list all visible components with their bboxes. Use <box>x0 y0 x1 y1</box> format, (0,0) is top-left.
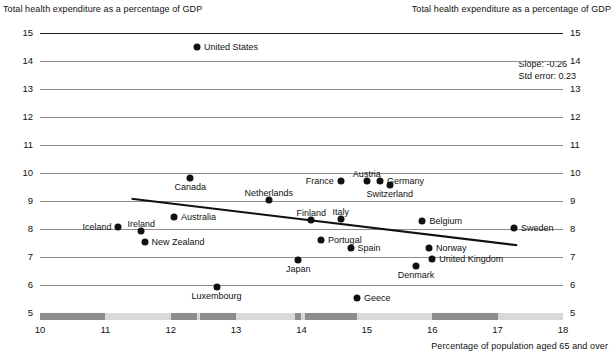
x-tick-label: 17 <box>488 324 508 335</box>
data-point-label: New Zealand <box>152 238 205 247</box>
y-tick-label: 8 <box>570 223 592 234</box>
gridline <box>40 145 563 146</box>
data-point <box>187 175 194 182</box>
slope-text: Slope: -0.26 <box>518 58 576 70</box>
data-point-label: Japan <box>286 265 311 274</box>
axis-bar-segment <box>200 313 236 320</box>
data-point <box>419 218 426 225</box>
y-tick-label: 5 <box>570 307 592 318</box>
data-point <box>171 214 178 221</box>
data-point-label: Sweden <box>521 224 554 233</box>
y-tick-label: 15 <box>11 27 33 38</box>
x-tick-label: 15 <box>357 324 377 335</box>
data-point-label: Canada <box>175 183 207 192</box>
data-point <box>318 236 325 243</box>
gridline <box>40 117 563 118</box>
y-tick-label: 13 <box>570 83 592 94</box>
gridline <box>40 33 563 34</box>
y-tick-label: 14 <box>11 55 33 66</box>
gridline <box>40 89 563 90</box>
axis-bar-segment <box>432 313 497 320</box>
data-point-label: Denmark <box>398 271 435 280</box>
y-tick-label: 10 <box>11 167 33 178</box>
data-point <box>213 284 220 291</box>
x-tick-label: 13 <box>226 324 246 335</box>
data-point <box>510 224 517 231</box>
y-tick-label: 6 <box>570 279 592 290</box>
data-point-label: Italy <box>332 208 349 217</box>
gridline <box>40 285 563 286</box>
x-tick-label: 18 <box>553 324 573 335</box>
data-point <box>141 239 148 246</box>
data-point <box>425 245 432 252</box>
data-point <box>429 256 436 263</box>
axis-bar-segment <box>40 313 105 320</box>
axis-bar-segment <box>295 313 302 320</box>
y-tick-label: 12 <box>11 111 33 122</box>
gridline <box>40 173 563 174</box>
x-axis-bar <box>40 313 563 320</box>
data-point <box>386 181 393 188</box>
y-tick-label: 12 <box>570 111 592 122</box>
data-point-label: Switzerland <box>366 190 413 199</box>
x-axis-title: Percentage of population aged 65 and ove… <box>431 341 608 351</box>
y-tick-label: 15 <box>570 27 592 38</box>
data-point-label: Finland <box>297 209 327 218</box>
gridline <box>40 61 563 62</box>
x-tick-label: 11 <box>95 324 115 335</box>
std-error-text: Std error: 0.23 <box>518 70 576 82</box>
y-tick-label: 7 <box>11 251 33 262</box>
y-tick-label: 9 <box>11 195 33 206</box>
y-tick-label: 10 <box>570 167 592 178</box>
data-point <box>115 223 122 230</box>
data-point-label: Iceland <box>82 223 111 232</box>
data-point <box>337 177 344 184</box>
y-tick-label: 11 <box>570 139 592 150</box>
data-point <box>347 245 354 252</box>
y-tick-label: 8 <box>11 223 33 234</box>
scatter-chart: Total health expenditure as a percentage… <box>0 0 614 360</box>
data-point-label: Norway <box>436 244 467 253</box>
y-axis-title-right: Total health expenditure as a percentage… <box>412 4 611 14</box>
axis-bar-segment <box>305 313 357 320</box>
x-tick-label: 14 <box>292 324 312 335</box>
x-tick-label: 12 <box>161 324 181 335</box>
data-point-label: Ireland <box>128 220 156 229</box>
y-tick-label: 9 <box>570 195 592 206</box>
data-point <box>354 295 361 302</box>
data-point-label: Belgium <box>429 217 462 226</box>
y-tick-label: 6 <box>11 279 33 290</box>
data-point-label: United Kingdom <box>439 255 503 264</box>
y-tick-label: 14 <box>570 55 592 66</box>
data-point-label: Australia <box>181 213 216 222</box>
y-tick-label: 13 <box>11 83 33 94</box>
y-axis-title-left: Total health expenditure as a percentage… <box>3 4 202 14</box>
y-tick-label: 7 <box>570 251 592 262</box>
y-tick-label: 11 <box>11 139 33 150</box>
axis-bar-segment <box>171 313 197 320</box>
x-tick-label: 10 <box>30 324 50 335</box>
data-point-label: Spain <box>358 244 381 253</box>
data-point-label: Luxembourg <box>191 292 241 301</box>
data-point <box>295 257 302 264</box>
x-tick-label: 16 <box>422 324 442 335</box>
data-point-label: France <box>306 177 334 186</box>
data-point-label: Netherlands <box>245 189 294 198</box>
data-point-label: Geece <box>364 294 391 303</box>
data-point <box>412 262 419 269</box>
data-point <box>193 44 200 51</box>
data-point-label: United States <box>204 43 258 52</box>
data-point <box>376 177 383 184</box>
y-tick-label: 5 <box>11 307 33 318</box>
gridline <box>40 201 563 202</box>
